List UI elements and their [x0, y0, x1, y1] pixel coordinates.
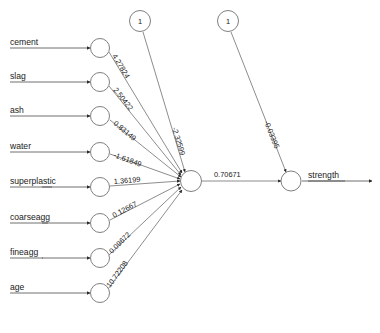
input-arrows [42, 48, 90, 293]
output-label: strength [308, 170, 339, 180]
input-nodes [91, 39, 110, 303]
input-label-water: water [9, 141, 31, 151]
input-node-fineagg[interactable] [91, 249, 110, 268]
input-label-age: age [10, 282, 25, 292]
input-node-slag[interactable] [91, 73, 110, 92]
bias-nodes [130, 11, 239, 32]
input-label-fineagg: fineagg [10, 247, 38, 257]
input-node-superplastic[interactable] [91, 178, 110, 197]
weight-label-bias-hidden: -2.32599 [170, 126, 187, 157]
input-node-water[interactable] [91, 143, 110, 162]
weight-label-bias-output: -0.03395 [262, 119, 281, 149]
output-node[interactable] [281, 171, 301, 191]
input-label-slag: slag [10, 71, 26, 81]
weight-label-cement: 4.27824 [110, 52, 131, 80]
input-label-superplastic: superplastic [10, 176, 57, 186]
input-node-coarseagg[interactable] [91, 214, 110, 233]
bias-node-output-value: 1 [226, 17, 230, 26]
edge-bias-output [231, 32, 286, 172]
weight-label-ash: 0.83149 [112, 119, 138, 143]
bias-edges [143, 32, 286, 172]
neural-network-diagram: 1 1 cement slag ash water superplastic c… [0, 0, 380, 333]
input-label-coarseagg: coarseagg [10, 212, 50, 222]
input-node-cement[interactable] [91, 39, 110, 58]
input-label-cement: cement [10, 37, 39, 47]
input-labels: cement slag ash water superplastic coars… [9, 37, 57, 293]
weight-label-hidden-output: 0.70671 [214, 170, 241, 179]
weight-label-water: -1.61849 [112, 150, 143, 168]
hidden-node[interactable] [181, 171, 202, 192]
input-label-ash: ash [10, 105, 24, 115]
input-node-ash[interactable] [91, 107, 110, 126]
weight-label-coarseagg: 0.12667 [111, 199, 139, 219]
bias-node-hidden-value: 1 [138, 17, 142, 26]
network-svg: 1 1 cement slag ash water superplastic c… [0, 0, 380, 333]
weight-label-fineagg: 0.09672 [107, 230, 132, 255]
